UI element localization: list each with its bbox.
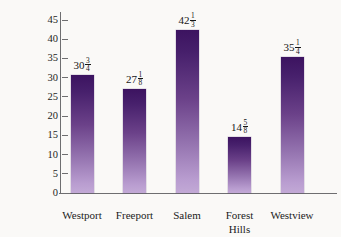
y-tick-label: 30 xyxy=(48,72,59,84)
bar xyxy=(176,30,199,193)
fraction-denominator: 8 xyxy=(243,127,248,135)
plot-area: 051015202530354045 30342718421314583514 … xyxy=(60,12,338,194)
bar xyxy=(281,57,304,193)
bar-value-fraction: 14 xyxy=(295,39,300,55)
y-tick-label: 5 xyxy=(53,168,58,180)
y-tick-mark xyxy=(62,77,68,78)
y-tick-label: 10 xyxy=(48,149,59,161)
category-label-line: Westview xyxy=(255,209,329,223)
y-tick: 40 xyxy=(22,33,68,45)
y-tick-mark xyxy=(62,39,68,40)
chart-figure: Average yearly rainfall (in inches) 0510… xyxy=(0,0,341,237)
y-tick-mark xyxy=(62,96,68,97)
y-tick-mark xyxy=(62,193,68,194)
bar-value-fraction: 58 xyxy=(243,119,248,135)
category-label-line: Hills xyxy=(203,223,277,237)
y-tick: 45 xyxy=(22,14,68,26)
bar-value-fraction: 18 xyxy=(138,71,143,87)
x-axis-category-label: Westview xyxy=(255,209,329,223)
bar-value-fraction: 13 xyxy=(190,12,195,28)
y-tick: 30 xyxy=(22,72,68,84)
y-tick-mark xyxy=(62,135,68,136)
y-tick-label: 20 xyxy=(48,110,59,122)
bar xyxy=(228,137,251,193)
fraction-denominator: 8 xyxy=(138,79,143,87)
y-tick: 15 xyxy=(22,129,68,141)
bar-value-label: 1458 xyxy=(205,119,275,135)
bar-value-label: 4213 xyxy=(152,12,222,28)
y-tick-label: 15 xyxy=(48,129,59,141)
bar-value-whole: 30 xyxy=(73,59,84,71)
y-tick-label: 40 xyxy=(48,33,59,45)
bar-value-label: 2718 xyxy=(100,71,170,87)
bar-value-whole: 42 xyxy=(178,15,189,27)
fraction-denominator: 3 xyxy=(190,21,195,29)
bar-value-fraction: 34 xyxy=(85,57,90,73)
y-tick: 10 xyxy=(22,149,68,161)
bar-value-whole: 14 xyxy=(231,121,242,133)
bar-value-label: 3514 xyxy=(257,39,327,55)
y-tick-label: 25 xyxy=(48,91,59,103)
y-tick-mark xyxy=(62,116,68,117)
x-axis-line xyxy=(59,193,337,194)
y-tick: 25 xyxy=(22,91,68,103)
y-tick-label: 45 xyxy=(48,14,59,26)
bar xyxy=(123,89,146,193)
bar-value-whole: 35 xyxy=(283,42,294,54)
bar xyxy=(71,75,94,193)
y-tick-mark xyxy=(62,154,68,155)
bar-value-whole: 27 xyxy=(126,73,137,85)
fraction-denominator: 4 xyxy=(295,48,300,56)
y-tick-label: 0 xyxy=(53,187,58,199)
fraction-denominator: 4 xyxy=(85,65,90,73)
y-tick: 0 xyxy=(22,187,68,199)
y-tick: 5 xyxy=(22,168,68,180)
y-tick: 20 xyxy=(22,110,68,122)
y-tick-mark xyxy=(62,173,68,174)
y-tick-mark xyxy=(62,20,68,21)
